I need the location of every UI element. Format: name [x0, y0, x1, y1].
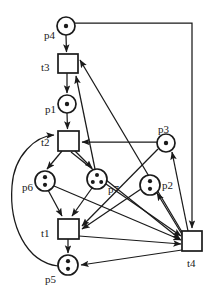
transition-t4[interactable]	[182, 231, 202, 251]
token	[148, 187, 152, 191]
place-label-p2: p2	[162, 180, 173, 191]
place-p3[interactable]	[157, 134, 175, 152]
place-label-p7: p7	[108, 184, 119, 195]
token	[164, 141, 168, 145]
place-label-p1: p1	[45, 104, 56, 115]
place-label-p4: p4	[44, 30, 55, 41]
arc-p4-t3	[66, 35, 67, 52]
place-circle	[58, 255, 78, 275]
token	[148, 179, 152, 183]
arc-p6-t1	[48, 190, 62, 216]
token	[64, 24, 68, 28]
arc-p4-t4	[75, 23, 192, 228]
token	[43, 183, 47, 187]
token	[91, 180, 95, 184]
arc-p1-t2	[67, 113, 68, 129]
petri-net-canvas	[0, 0, 212, 291]
place-circle	[87, 169, 107, 189]
token	[66, 259, 70, 263]
place-circle	[35, 171, 55, 191]
place-p6[interactable]	[35, 171, 55, 191]
token	[99, 180, 103, 184]
arc-p2-t1	[82, 189, 141, 229]
arc-p7-t1	[72, 188, 92, 216]
transition-label-t1: t1	[41, 228, 50, 239]
place-p2[interactable]	[140, 175, 160, 195]
place-circle	[140, 175, 160, 195]
transition-label-t2: t2	[41, 137, 50, 148]
place-p7[interactable]	[87, 169, 107, 189]
token	[66, 267, 70, 271]
transition-t1[interactable]	[58, 219, 79, 239]
transition-label-t3: t3	[41, 62, 50, 73]
place-label-p3: p3	[158, 124, 169, 135]
arc-t2-p7	[75, 151, 92, 168]
arc-t2-p6	[47, 151, 62, 169]
arc-t4-p2	[157, 193, 183, 236]
place-label-p5: p5	[45, 274, 56, 285]
place-p4[interactable]	[57, 17, 75, 35]
place-label-p6: p6	[22, 182, 33, 193]
transition-t3[interactable]	[58, 54, 78, 73]
token	[43, 175, 47, 179]
token	[95, 173, 99, 177]
transition-label-t4: t4	[187, 258, 196, 269]
arc-p5-t2	[12, 135, 58, 266]
arc-t1-t4	[79, 236, 181, 244]
arc-t4-p5	[81, 250, 182, 265]
place-p5[interactable]	[58, 255, 78, 275]
transition-t2[interactable]	[58, 131, 79, 151]
token	[65, 102, 69, 106]
petri-net-diagram: p4p1p3p6p7p2p5t3t2t1t4	[0, 0, 212, 291]
place-p1[interactable]	[58, 95, 76, 113]
